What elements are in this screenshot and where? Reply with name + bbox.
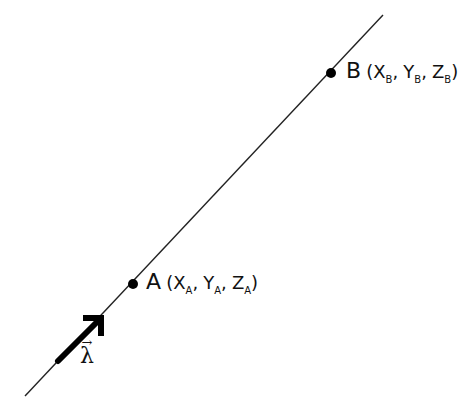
point-a-label: A (XA, YA, ZA) <box>146 269 258 296</box>
point-b-name: B <box>346 58 361 83</box>
point-a-dot <box>128 279 138 289</box>
point-a-name: A <box>146 269 161 294</box>
point-b-dot <box>326 68 336 78</box>
vector-symbol: λ <box>80 345 94 367</box>
vector-lambda-label: → λ <box>80 339 94 367</box>
point-b-label: B (XB, YB, ZB) <box>346 58 458 85</box>
